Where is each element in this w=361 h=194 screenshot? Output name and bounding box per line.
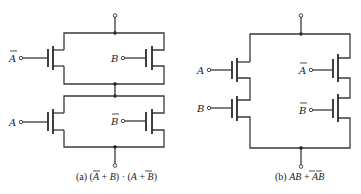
input-terminal-icon xyxy=(207,68,210,71)
schematic-canvas: A B A xyxy=(0,0,361,194)
caption-b: (b) AB + AB xyxy=(275,171,324,183)
top-terminal-icon xyxy=(299,14,303,18)
upper-block-bottom-wire xyxy=(64,66,164,84)
input-terminal-icon xyxy=(121,56,124,59)
transistor-b-bar-right-bottom: B xyxy=(298,94,338,122)
input-label-a-bar: A xyxy=(8,53,16,64)
input-label-b-bar: B xyxy=(298,105,306,116)
transistor-b-upper-right: B xyxy=(110,46,152,70)
bottom-rail-wire xyxy=(237,117,350,148)
input-label-a: A xyxy=(8,117,16,128)
transistor-a-left-top: A xyxy=(196,58,237,82)
input-label-a: A xyxy=(196,65,204,76)
transistor-a-bar-right-top: A xyxy=(298,54,338,82)
circuit-a: A B A xyxy=(8,14,164,183)
transistor-b-left-bottom: B xyxy=(196,96,237,121)
transistor-a-bar-upper-left: A xyxy=(8,46,64,70)
lower-block-top-wire xyxy=(64,96,164,113)
bottom-terminal-icon xyxy=(299,165,303,169)
input-terminal-icon xyxy=(19,120,22,123)
input-terminal-icon xyxy=(207,106,210,109)
input-label-a-bar: A xyxy=(298,65,306,76)
upper-block-top-wire xyxy=(64,33,164,50)
right-series-link-wire xyxy=(338,78,350,98)
top-terminal-icon xyxy=(113,14,117,18)
transistor-b-bar-lower-right: B xyxy=(110,109,152,134)
bottom-terminal-icon xyxy=(113,164,117,168)
input-label-b: B xyxy=(110,53,118,64)
top-rail-wire xyxy=(250,34,350,62)
input-label-b: B xyxy=(196,103,204,114)
lower-block-bottom-wire xyxy=(64,130,164,147)
circuit-b: A B A B xyxy=(196,14,350,183)
input-terminal-icon xyxy=(309,108,312,111)
transistor-a-lower-left: A xyxy=(8,109,64,134)
input-terminal-icon xyxy=(19,56,22,59)
input-terminal-icon xyxy=(121,119,124,122)
input-terminal-icon xyxy=(309,68,312,71)
caption-a: (a) (A + B) · (A + B) xyxy=(76,171,157,183)
left-series-link-wire xyxy=(237,78,250,100)
input-label-b-bar: B xyxy=(110,116,118,127)
